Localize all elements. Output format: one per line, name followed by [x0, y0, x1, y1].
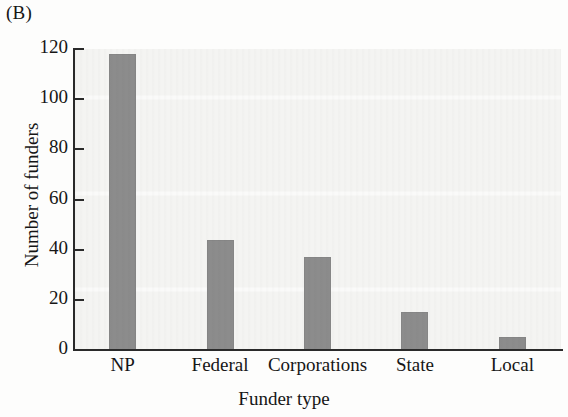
y-axis-tick — [75, 148, 84, 150]
x-axis-tick-label: Corporations — [268, 354, 367, 376]
y-axis-tick-label: 80 — [2, 136, 68, 158]
x-axis-tick-label: State — [396, 354, 434, 376]
y-axis-tick — [75, 249, 84, 251]
y-axis-tick-label: 100 — [2, 86, 68, 108]
y-axis-tick — [75, 299, 84, 301]
x-axis-tick-label: Federal — [192, 354, 249, 376]
bar — [207, 240, 234, 350]
y-axis-tick-label: 0 — [2, 337, 68, 359]
x-axis-tick-label: NP — [111, 354, 135, 376]
plot-area — [74, 49, 561, 350]
y-axis-tick-label: 60 — [2, 187, 68, 209]
y-axis-tick-label: 40 — [2, 237, 68, 259]
bar — [109, 54, 136, 350]
y-axis-tick — [75, 48, 84, 50]
x-axis-tick-label: Local — [491, 354, 534, 376]
x-axis-title: Funder type — [0, 388, 568, 410]
x-axis-line — [73, 349, 563, 351]
y-axis-tick-label: 120 — [2, 36, 68, 58]
y-axis-tick — [75, 98, 84, 100]
y-axis-tick — [75, 349, 84, 351]
y-axis-tick-label: 20 — [2, 287, 68, 309]
bar — [304, 257, 331, 350]
bar — [401, 312, 428, 350]
figure-panel-b: (B) Number of funders 020406080100120 NP… — [0, 0, 568, 417]
panel-label: (B) — [6, 2, 32, 24]
y-axis-tick — [75, 199, 84, 201]
